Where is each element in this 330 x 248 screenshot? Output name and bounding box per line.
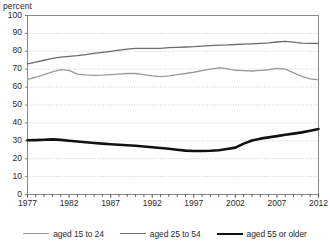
y-tick-label: 10 bbox=[0, 172, 22, 181]
legend-label: aged 55 or older bbox=[247, 229, 307, 239]
legend-label: aged 25 to 54 bbox=[150, 229, 201, 239]
gridlines bbox=[28, 33, 319, 176]
series-line-0 bbox=[28, 68, 319, 80]
legend-swatch-icon bbox=[217, 231, 243, 237]
legend-swatch-icon bbox=[23, 231, 49, 237]
y-tick-label: 50 bbox=[0, 100, 22, 109]
y-tick-label: 30 bbox=[0, 136, 22, 145]
y-tick-label: 90 bbox=[0, 28, 22, 37]
x-tick-label: 1997 bbox=[179, 199, 209, 208]
legend-swatch-icon bbox=[120, 231, 146, 237]
y-tick-label: 20 bbox=[0, 154, 22, 163]
x-tick-label: 2007 bbox=[262, 199, 292, 208]
chart-plot-svg bbox=[0, 0, 330, 248]
legend-entry-1: aged 25 to 54 bbox=[120, 229, 201, 239]
x-tick-label: 1977 bbox=[13, 199, 43, 208]
x-tick-label: 2002 bbox=[220, 199, 250, 208]
chart-container: percent 1009080706050403020100 197719821… bbox=[0, 0, 330, 248]
data-series-group bbox=[28, 41, 319, 151]
legend-entry-2: aged 55 or older bbox=[217, 229, 307, 239]
legend-label: aged 15 to 24 bbox=[53, 229, 104, 239]
legend-entry-0: aged 15 to 24 bbox=[23, 229, 104, 239]
series-line-2 bbox=[28, 129, 319, 151]
y-tick-label: 100 bbox=[0, 11, 22, 20]
x-tick-label: 1987 bbox=[96, 199, 126, 208]
x-tick-label: 1982 bbox=[54, 199, 84, 208]
chart-legend: aged 15 to 24aged 25 to 54aged 55 or old… bbox=[0, 226, 330, 242]
y-tick-label: 80 bbox=[0, 46, 22, 55]
x-tick-label: 1992 bbox=[137, 199, 167, 208]
y-tick-label: 40 bbox=[0, 118, 22, 127]
y-tick-label: 70 bbox=[0, 64, 22, 73]
series-line-1 bbox=[28, 41, 319, 63]
x-tick-label: 2012 bbox=[304, 199, 330, 208]
y-tick-label: 60 bbox=[0, 82, 22, 91]
